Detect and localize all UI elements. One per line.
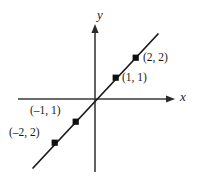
point-label-neg2-2: (–2, 2)	[9, 127, 40, 139]
point-label-neg1-1: (–1, 1)	[30, 105, 61, 117]
x-axis-arrowhead-icon	[166, 95, 175, 102]
x-axis-label: x	[180, 90, 186, 103]
point-label-1-1: (1, 1)	[122, 72, 147, 84]
coordinate-plane-figure: y x (2, 2) (1, 1) (–1, 1) (–2, 2)	[0, 0, 197, 184]
data-point-marker	[113, 75, 119, 81]
point-label-2-2: (2, 2)	[143, 52, 168, 64]
data-point-marker	[73, 119, 79, 125]
y-axis-label: y	[97, 8, 103, 21]
data-point-marker	[133, 55, 139, 61]
y-axis-arrowhead-icon	[91, 24, 98, 33]
graph-canvas	[0, 0, 197, 184]
data-point-marker	[52, 140, 58, 146]
